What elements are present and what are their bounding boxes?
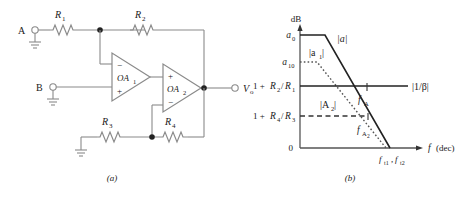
input-a-terminal[interactable] xyxy=(32,27,38,33)
curve-a-label: |a| xyxy=(337,33,348,44)
xtick-ft1-ft2: f t1 , f t2 xyxy=(379,154,405,166)
svg-text:R: R xyxy=(284,81,291,91)
oa1-minus-sign: − xyxy=(117,60,122,70)
figure-svg: A R 1 R 2 xyxy=(0,0,465,197)
panel-b-bode-plot: dB f (dec) a 0 a 10 1 + R 2 / R 1 1 + R … xyxy=(253,14,454,183)
resistor-r3-sub: 3 xyxy=(109,122,113,130)
fA2-annotation: f A 2 xyxy=(357,125,370,139)
ytick-a0-sub: 0 xyxy=(292,35,295,42)
input-a-label: A xyxy=(18,25,26,36)
ytick-zero: 0 xyxy=(289,143,294,153)
fA-sub: A xyxy=(364,100,369,107)
oa1-label: OA xyxy=(117,73,129,83)
xtick-ft1-f: f xyxy=(379,154,383,164)
resistor-r3: R 3 xyxy=(97,116,125,142)
panel-a-caption: (a) xyxy=(107,173,118,183)
ytick-a10-label: a xyxy=(282,57,287,67)
ytick-a10-sub: 10 xyxy=(288,62,295,69)
ground-symbol-bottom xyxy=(75,137,87,156)
input-b-label: B xyxy=(36,82,43,93)
curve-open-loop-a1 xyxy=(300,62,386,148)
curve-a1-label-group: |a 1 | xyxy=(309,47,324,60)
input-a-group: A xyxy=(18,25,41,48)
xtick-ft2-f: f xyxy=(395,154,399,164)
resistor-r2-sub: 2 xyxy=(142,15,146,23)
output-terminal[interactable] xyxy=(232,85,238,91)
resistor-r4: R 4 xyxy=(160,116,188,142)
ground-symbol-a xyxy=(29,42,41,48)
x-axis-arrow xyxy=(416,145,423,150)
svg-text:R: R xyxy=(269,81,276,91)
curve-A2-label-group: |A 2 | xyxy=(320,99,336,112)
junction-node-feedback xyxy=(149,134,155,140)
fA2-label: f xyxy=(357,125,361,135)
textbook-figure: A R 1 R 2 xyxy=(0,0,465,197)
input-b-group: B xyxy=(36,82,59,105)
ground-symbol-b xyxy=(47,99,59,105)
resistor-r1-sub: 1 xyxy=(62,15,66,23)
svg-text:1 +: 1 + xyxy=(253,81,265,91)
svg-text:/: / xyxy=(281,81,284,91)
svg-text:/: / xyxy=(281,111,284,121)
curve-a1-label-bar: | xyxy=(322,47,324,58)
xtick-ft1-sub: t1 xyxy=(384,160,389,166)
resistor-r2: R 2 xyxy=(130,9,158,35)
opamp-oa2[interactable]: + − OA 2 xyxy=(163,64,201,112)
panel-a-circuit: A R 1 R 2 xyxy=(18,9,254,183)
ytick-closed-loop-gain: 1 + R 4 / R 3 xyxy=(253,111,295,123)
resistor-r4-sub: 4 xyxy=(172,122,176,130)
svg-text:1 +: 1 + xyxy=(253,111,265,121)
oa2-plus-sign: + xyxy=(168,71,173,81)
oa2-sub: 2 xyxy=(183,89,186,96)
curve-noise-gain-label: |1/β| xyxy=(412,81,429,92)
curve-A2-label: |A xyxy=(320,99,330,110)
ytick-a0-label: a xyxy=(286,30,291,40)
x-axis-title-dec: (dec) xyxy=(436,143,454,153)
oa1-sub: 1 xyxy=(133,78,136,85)
resistor-r1: R 1 xyxy=(50,9,78,35)
oa2-minus-sign: − xyxy=(168,97,173,107)
curve-A2-label-bar: | xyxy=(334,99,336,110)
svg-text:R: R xyxy=(284,111,291,121)
input-b-terminal[interactable] xyxy=(50,84,56,90)
fA2-sub-2: 2 xyxy=(367,133,370,139)
opamp-oa1[interactable]: − + OA 1 xyxy=(112,53,150,101)
panel-b-caption: (b) xyxy=(345,173,356,183)
svg-text:3: 3 xyxy=(292,116,295,123)
xtick-ft2-sub: t2 xyxy=(400,160,405,166)
fA-annotation: f A xyxy=(358,95,369,107)
fA-label: f xyxy=(358,95,362,105)
resistor-r1-label: R xyxy=(54,9,61,20)
ytick-noise-gain: 1 + R 2 / R 1 xyxy=(253,81,295,93)
xtick-comma: , xyxy=(391,154,393,164)
svg-text:2: 2 xyxy=(277,86,280,93)
resistor-r2-label: R xyxy=(134,9,141,20)
resistor-r4-label: R xyxy=(164,116,171,127)
svg-text:1: 1 xyxy=(292,86,295,93)
y-axis-title: dB xyxy=(291,14,302,24)
oa1-plus-sign: + xyxy=(117,86,122,96)
oa2-label: OA xyxy=(167,84,179,94)
y-axis-arrow xyxy=(297,24,302,31)
resistor-r3-label: R xyxy=(101,116,108,127)
x-axis-title-f: f xyxy=(428,143,432,153)
curve-a1-label: |a xyxy=(309,47,316,58)
svg-text:R: R xyxy=(269,111,276,121)
